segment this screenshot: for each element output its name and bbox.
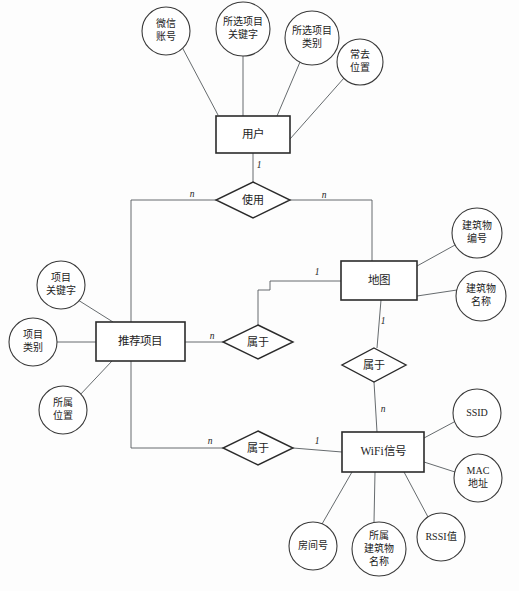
edge-wifi-building-name-to-wifi bbox=[374, 472, 375, 522]
attribute-item-location-line-1: 位置 bbox=[53, 409, 73, 421]
attribute-item-location[interactable]: 所属 位置 bbox=[39, 386, 87, 434]
attribute-item-keyword[interactable]: 项目 关键字 bbox=[37, 261, 85, 309]
edge-belong-map-wifi-to-wifi bbox=[374, 382, 377, 432]
edge-building-name-to-map bbox=[417, 290, 457, 296]
edge-item-keyword-to-recommend-item bbox=[78, 300, 113, 322]
entity-map-label: 地图 bbox=[368, 274, 390, 286]
attribute-building-name-line-0: 建筑物 bbox=[466, 282, 496, 294]
cardinality-use-right-n: n bbox=[322, 190, 327, 200]
relationship-use[interactable]: 使用 bbox=[216, 182, 290, 218]
attribute-wechat-account-line-1: 账号 bbox=[156, 31, 176, 42]
edge-building-number-to-map bbox=[417, 245, 455, 266]
entity-map[interactable]: 地图 bbox=[341, 261, 417, 300]
attribute-wifi-building-name[interactable]: 所属 建筑物 名称 bbox=[352, 522, 406, 576]
edge-frequent-location-to-user bbox=[290, 78, 344, 139]
edge-wechat-account-to-user bbox=[182, 47, 218, 115]
attribute-wechat-account-line-0: 微信 bbox=[156, 17, 176, 29]
attribute-selected-item-keyword[interactable]: 所选项目 关键字 bbox=[216, 2, 270, 56]
edge-belong-item-wifi-to-wifi bbox=[293, 448, 342, 452]
er-diagram-canvas: 用户 推荐项目 地图 WiFi信号 使用 属于 bbox=[0, 0, 519, 591]
attribute-item-keyword-line-1: 关键字 bbox=[46, 284, 76, 296]
attribute-mac-address-line-1: 地址 bbox=[468, 477, 488, 489]
edge-rssi-to-wifi bbox=[404, 472, 428, 517]
attribute-selected-item-keyword-line-0: 所选项目 bbox=[223, 15, 263, 27]
edge-item-location-to-recommend-item bbox=[79, 361, 112, 396]
entity-wifi-signal-label: WiFi信号 bbox=[360, 445, 405, 457]
attribute-mac-address-line-0: MAC bbox=[467, 465, 490, 476]
relationship-use-label: 使用 bbox=[242, 194, 264, 206]
edge-use-to-map bbox=[290, 200, 372, 261]
edge-use-to-recommend-item bbox=[131, 200, 216, 322]
entity-wifi-signal[interactable]: WiFi信号 bbox=[342, 432, 424, 472]
attribute-wifi-building-name-line-0: 所属 bbox=[369, 530, 389, 541]
entity-user-label: 用户 bbox=[242, 127, 264, 140]
attribute-selected-item-category[interactable]: 所选项目 类别 bbox=[285, 11, 339, 65]
attribute-building-number-line-1: 编号 bbox=[467, 232, 487, 244]
attribute-rssi-value-line-0: RSSI值 bbox=[425, 530, 456, 542]
attribute-selected-item-keyword-line-1: 关键字 bbox=[228, 28, 258, 40]
relationship-belong-item-wifi-label: 属于 bbox=[247, 442, 269, 454]
cardinality-item-wifi-n: n bbox=[208, 436, 213, 446]
attribute-building-name[interactable]: 建筑物 名称 bbox=[456, 271, 506, 321]
cardinality-user-use: 1 bbox=[257, 160, 262, 170]
attribute-item-keyword-line-0: 项目 bbox=[51, 272, 71, 283]
relationship-belong-item-wifi[interactable]: 属于 bbox=[223, 431, 293, 465]
entity-user[interactable]: 用户 bbox=[216, 116, 290, 153]
attribute-ssid-line-0: SSID bbox=[466, 407, 488, 418]
edge-recommend-item-trunk-to-belong-wifi bbox=[131, 361, 223, 448]
er-diagram-svg: 用户 推荐项目 地图 WiFi信号 使用 属于 bbox=[0, 0, 519, 591]
attribute-frequent-location-line-1: 位置 bbox=[350, 61, 370, 73]
edge-ssid-to-wifi bbox=[424, 422, 454, 438]
attribute-wifi-building-name-line-1: 建筑物 bbox=[364, 542, 394, 554]
attribute-building-number-line-0: 建筑物 bbox=[462, 219, 492, 231]
cardinality-map-down-1: 1 bbox=[381, 316, 386, 326]
attribute-wifi-building-name-line-2: 名称 bbox=[369, 555, 389, 567]
edge-map-to-belong-item-map bbox=[258, 281, 341, 325]
cardinality-wifi-up-n: n bbox=[381, 404, 386, 414]
entity-recommend-item[interactable]: 推荐项目 bbox=[96, 322, 185, 361]
attribute-item-category-line-1: 类别 bbox=[23, 341, 43, 353]
cardinality-layer: 1 n n 1 n 1 n n 1 bbox=[190, 160, 386, 446]
attribute-room-number-line-0: 房间号 bbox=[298, 539, 328, 551]
relationship-belong-map-wifi[interactable]: 属于 bbox=[342, 348, 406, 382]
edge-room-number-to-wifi bbox=[322, 472, 352, 524]
attribute-selected-item-category-line-1: 类别 bbox=[302, 37, 322, 49]
entity-recommend-item-label: 推荐项目 bbox=[118, 334, 162, 347]
relationship-belong-item-map[interactable]: 属于 bbox=[223, 325, 293, 359]
relationship-belong-item-map-label: 属于 bbox=[247, 336, 269, 348]
edge-selected-category-to-user bbox=[277, 62, 300, 116]
attribute-mac-address[interactable]: MAC 地址 bbox=[454, 454, 502, 502]
attribute-building-name-line-1: 名称 bbox=[471, 295, 491, 307]
attribute-building-number[interactable]: 建筑物 编号 bbox=[452, 208, 502, 258]
attribute-room-number[interactable]: 房间号 bbox=[289, 522, 337, 570]
attribute-item-category-line-0: 项目 bbox=[23, 329, 43, 340]
cardinality-item-belong-n: n bbox=[210, 331, 215, 341]
attribute-rssi-value[interactable]: RSSI值 bbox=[417, 513, 465, 561]
cardinality-use-left-n: n bbox=[190, 189, 195, 199]
attribute-item-location-line-0: 所属 bbox=[53, 397, 73, 408]
attribute-frequent-location[interactable]: 常去 位置 bbox=[337, 39, 383, 85]
cardinality-map-left-1: 1 bbox=[315, 267, 320, 277]
attribute-ssid[interactable]: SSID bbox=[453, 389, 501, 437]
attribute-layer: 微信 账号 所选项目 关键字 所选项目 类别 常去 位置 项目 bbox=[9, 2, 506, 576]
relationship-layer: 使用 属于 属于 属于 bbox=[216, 182, 406, 465]
cardinality-wifi-left-1: 1 bbox=[315, 436, 320, 446]
attribute-wechat-account[interactable]: 微信 账号 bbox=[142, 7, 190, 55]
edge-mac-address-to-wifi bbox=[424, 462, 455, 472]
attribute-frequent-location-line-0: 常去 bbox=[350, 48, 370, 60]
relationship-belong-map-wifi-label: 属于 bbox=[363, 359, 385, 371]
attribute-item-category[interactable]: 项目 类别 bbox=[9, 318, 57, 366]
attribute-selected-item-category-line-0: 所选项目 bbox=[292, 24, 332, 36]
